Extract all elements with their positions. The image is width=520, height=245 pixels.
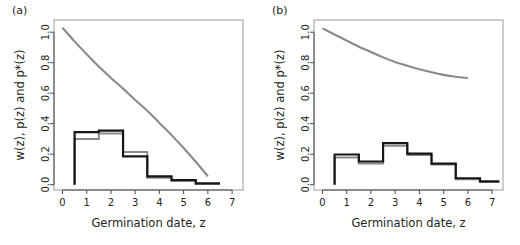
y-tick-label: 0.6 (301, 85, 312, 101)
y-tick-label: 1.0 (41, 24, 52, 40)
x-tick-label: 7 (229, 197, 235, 208)
y-tick-label: 0.4 (301, 116, 312, 132)
x-tick-label: 4 (156, 197, 162, 208)
y-tick-label: 0.0 (41, 177, 52, 193)
panel-a-plot: 0.00.20.40.60.81.001234567Germination da… (0, 0, 260, 245)
y-tick-label: 0.8 (301, 55, 312, 71)
y-axis-title: w(z), p(z) and p*(z) (273, 49, 287, 160)
x-tick-label: 0 (319, 197, 325, 208)
y-tick-label: 1.0 (301, 24, 312, 40)
series-w-z-curve (62, 28, 207, 177)
x-tick-label: 3 (132, 197, 138, 208)
x-tick-label: 2 (108, 197, 114, 208)
x-tick-label: 5 (180, 197, 186, 208)
x-tick-label: 3 (392, 197, 398, 208)
x-tick-label: 4 (416, 197, 422, 208)
figure-container: (a) 0.00.20.40.60.81.001234567Germinatio… (0, 0, 520, 245)
y-tick-label: 0.0 (301, 177, 312, 193)
panel-b: (b) 0.00.20.40.60.81.001234567Germinatio… (260, 0, 520, 245)
series-w-z-curve (322, 28, 467, 78)
x-tick-label: 6 (465, 197, 471, 208)
panel-a: (a) 0.00.20.40.60.81.001234567Germinatio… (0, 0, 260, 245)
y-axis-title: w(z), p(z) and p*(z) (13, 49, 27, 160)
plot-frame (54, 20, 243, 190)
x-tick-label: 6 (205, 197, 211, 208)
x-tick-label: 1 (344, 197, 350, 208)
y-tick-label: 0.2 (301, 146, 312, 162)
y-tick-label: 0.4 (41, 116, 52, 132)
plot-frame (314, 20, 503, 190)
y-tick-label: 0.2 (41, 146, 52, 162)
x-axis-title: Germination date, z (351, 216, 465, 230)
x-tick-label: 7 (489, 197, 495, 208)
y-tick-label: 0.8 (41, 55, 52, 71)
x-tick-label: 2 (368, 197, 374, 208)
x-tick-label: 1 (84, 197, 90, 208)
x-axis-title: Germination date, z (91, 216, 205, 230)
panel-b-plot: 0.00.20.40.60.81.001234567Germination da… (260, 0, 520, 245)
x-tick-label: 0 (59, 197, 65, 208)
y-tick-label: 0.6 (41, 85, 52, 101)
x-tick-label: 5 (440, 197, 446, 208)
